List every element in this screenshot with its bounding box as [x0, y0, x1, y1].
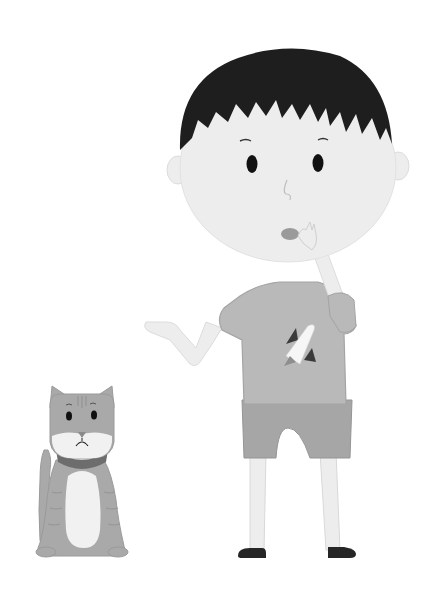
boy-mouth: [281, 228, 299, 240]
boy-left-eye: [247, 155, 258, 173]
illustration: [0, 0, 430, 598]
cat-right-eye: [91, 411, 97, 420]
cat-left-paw: [36, 547, 56, 557]
cat-left-eye: [66, 412, 72, 421]
boy-right-eye: [313, 154, 324, 172]
cat-right-paw: [108, 547, 128, 557]
cat-belly: [65, 471, 100, 548]
